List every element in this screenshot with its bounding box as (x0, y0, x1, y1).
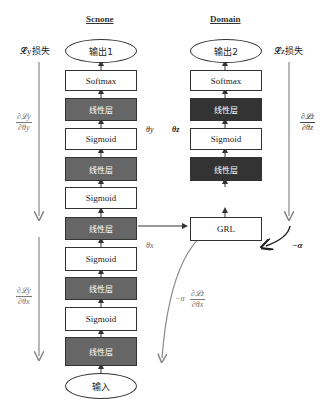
source-softmax-layer: Softmax (65, 70, 137, 91)
grad-ly-thy-num: ∂𝓛y (16, 112, 32, 123)
neg-alpha-prefix: −α (175, 294, 185, 303)
theta-x-label: θx (146, 241, 153, 250)
grad-ly-thx: ∂𝓛y ∂θx (16, 286, 32, 307)
domain-sigmoid-layer: Sigmoid (190, 128, 262, 150)
domain-linear-layer-2: 线性层 (190, 157, 262, 181)
grl-layer: GRL (190, 217, 262, 241)
grad-lz-thz: ∂𝓛z ∂θz (300, 112, 315, 133)
grad-ly-thy: ∂𝓛y ∂θy (16, 112, 32, 133)
source-sigmoid-layer-4: Sigmoid (65, 307, 137, 331)
grad-ly-thx-den: ∂θx (18, 297, 29, 307)
neg-alpha-grad-lz-thx: ∂𝓛z ∂θx (190, 289, 205, 310)
input-node: 输入 (65, 373, 137, 399)
source-sigmoid-layer-3: Sigmoid (65, 247, 137, 271)
grad-lz-thz-den: ∂θz (302, 123, 313, 133)
source-linear-layer-4: 线性层 (65, 277, 137, 300)
theta-z-label: θz (172, 125, 179, 134)
source-sigmoid-layer-1: Sigmoid (65, 128, 137, 150)
output1-node: 输出1 (65, 39, 137, 63)
diagram-connectors (0, 0, 326, 406)
grad-ly-thx-num: ∂𝓛y (16, 286, 32, 297)
source-linear-layer-3: 线性层 (65, 217, 137, 240)
grad-lz-thz-num: ∂𝓛z (300, 112, 315, 123)
source-sigmoid-layer-2: Sigmoid (65, 187, 137, 209)
source-linear-layer-2: 线性层 (65, 157, 137, 181)
domain-softmax-layer: Softmax (190, 70, 262, 91)
neg-alpha-grad-num: ∂𝓛z (190, 289, 205, 300)
source-linear-layer-5: 线性层 (65, 337, 137, 366)
neg-alpha-label: −α (292, 240, 302, 250)
grad-ly-thy-den: ∂θy (18, 123, 29, 133)
theta-y-label: θy (146, 125, 153, 134)
neg-alpha-grad-den: ∂θx (192, 300, 203, 310)
source-linear-layer-1: 线性层 (65, 98, 137, 121)
output2-node: 输出2 (190, 39, 262, 63)
domain-linear-layer-1: 线性层 (190, 98, 262, 121)
